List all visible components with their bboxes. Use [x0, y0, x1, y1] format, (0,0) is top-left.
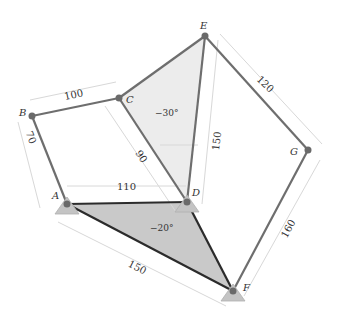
label-f: F — [242, 282, 251, 293]
link-ab — [32, 116, 67, 204]
angle-adf: −20° — [150, 223, 174, 233]
label-d: D — [191, 187, 200, 198]
joint-c — [116, 95, 123, 102]
dim-bc: 100 — [63, 87, 84, 102]
label-e: E — [199, 20, 208, 31]
dim-gf: 160 — [279, 218, 298, 240]
dim-de: 150 — [210, 131, 223, 151]
label-c: C — [126, 94, 134, 105]
label-g: G — [290, 146, 298, 157]
dim-cd: 90 — [133, 148, 149, 165]
joint-b — [29, 113, 36, 120]
joint-e — [202, 33, 209, 40]
linkage-diagram: A B C D E F G 100 70 90 110 150 120 160 … — [0, 0, 341, 331]
link-gf — [233, 150, 308, 291]
joint-f — [230, 288, 237, 295]
joint-a — [64, 201, 71, 208]
label-b: B — [18, 107, 26, 118]
dim-ab: 70 — [24, 129, 39, 145]
dim-ad: 110 — [117, 181, 136, 192]
label-a: A — [51, 190, 59, 201]
angle-cde: −30° — [155, 108, 179, 118]
joint-d — [184, 199, 191, 206]
joint-g — [305, 147, 312, 154]
dim-af: 150 — [126, 258, 148, 276]
